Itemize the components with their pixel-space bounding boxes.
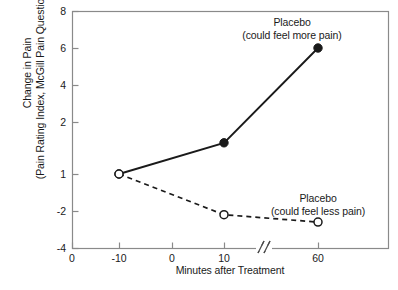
x-tick-label: -10 <box>111 252 126 264</box>
x-tick-label: 0 <box>169 252 175 264</box>
x-tick-label: 0 <box>69 252 75 264</box>
data-point-open <box>220 211 228 219</box>
x-tick-marks <box>73 243 319 249</box>
y-tick-label: 2 <box>40 116 66 128</box>
x-axis-label: Minutes after Treatment <box>72 264 388 276</box>
y-tick-label: 1 <box>40 168 66 180</box>
series-label-more-pain-line2: (could feel more pain) <box>217 29 367 42</box>
x-tick-label: 60 <box>312 252 324 264</box>
series-label-less-pain-line1: Placebo <box>243 192 393 205</box>
data-point-open <box>115 170 123 178</box>
y-tick-label: 8 <box>40 5 66 17</box>
y-tick-label: -2 <box>40 205 66 217</box>
y-tick-label: 4 <box>40 79 66 91</box>
data-point-filled <box>220 139 228 147</box>
data-point-open <box>314 218 322 226</box>
series-label-more-pain-line1: Placebo <box>217 16 367 29</box>
series-label-less-pain-line2: (could feel less pain) <box>243 205 393 218</box>
chart-figure: Change in Pain (Pain Rating Index, McGil… <box>0 0 398 290</box>
data-point-filled <box>314 44 322 52</box>
x-tick-label: 10 <box>218 252 230 264</box>
series-line <box>119 48 318 174</box>
series-label-less-pain: Placebo (could feel less pain) <box>243 192 393 217</box>
y-axis-tick-labels: 8 6 4 2 1 -2 -4 <box>30 0 66 290</box>
y-tick-label: -4 <box>40 242 66 254</box>
series-more-pain <box>115 44 322 178</box>
y-tick-marks <box>73 12 79 249</box>
series-label-more-pain: Placebo (could feel more pain) <box>217 16 367 41</box>
y-tick-label: 6 <box>40 42 66 54</box>
